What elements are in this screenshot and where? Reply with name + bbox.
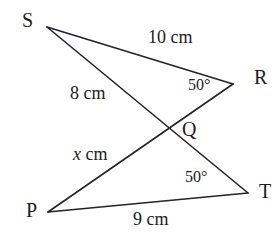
measure-label-PQ: x cm xyxy=(73,145,108,163)
measure-label-SQ: 8 cm xyxy=(70,84,106,102)
geometry-diagram: S R Q P T 10 cm 8 cm x cm 9 cm 50° 50° xyxy=(0,0,280,246)
vertex-label-S: S xyxy=(22,10,33,30)
vertex-label-P: P xyxy=(26,200,37,220)
measure-label-SR: 10 cm xyxy=(148,28,193,46)
angle-label-at-R: 50° xyxy=(188,77,210,93)
measure-label-PQ-variable: x xyxy=(73,144,81,164)
segment-group xyxy=(47,27,248,212)
vertex-label-T: T xyxy=(259,181,271,201)
measure-label-PQ-unit: cm xyxy=(81,144,108,164)
segment-ST xyxy=(47,27,248,193)
vertex-label-Q: Q xyxy=(182,119,196,139)
vertex-label-R: R xyxy=(254,67,267,87)
angle-label-at-T: 50° xyxy=(185,169,207,185)
measure-label-PT: 9 cm xyxy=(133,210,169,228)
